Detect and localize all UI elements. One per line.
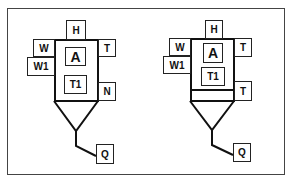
- right-label-a: A: [203, 43, 223, 63]
- left-label-t1: T1: [64, 75, 87, 94]
- right-outlet-pipe: [212, 130, 233, 155]
- right-label-t-upper: T: [234, 38, 252, 57]
- right-label-q: Q: [233, 143, 251, 162]
- left-label-q: Q: [96, 144, 114, 164]
- left-label-w1: W1: [27, 57, 55, 76]
- left-funnel: [54, 101, 98, 131]
- left-label-n: N: [98, 82, 116, 101]
- right-label-w1: W1: [163, 56, 191, 74]
- right-vessel-divider: [190, 89, 235, 91]
- right-label-t-lower: T: [234, 81, 252, 101]
- left-label-h: H: [66, 20, 86, 40]
- left-label-t: T: [98, 39, 116, 57]
- left-outlet-pipe: [76, 131, 96, 156]
- right-funnel: [190, 101, 234, 130]
- right-label-t1: T1: [201, 67, 225, 86]
- left-label-w: W: [33, 39, 55, 57]
- right-label-h: H: [205, 20, 223, 39]
- right-label-w: W: [169, 38, 191, 56]
- left-label-a: A: [65, 47, 86, 66]
